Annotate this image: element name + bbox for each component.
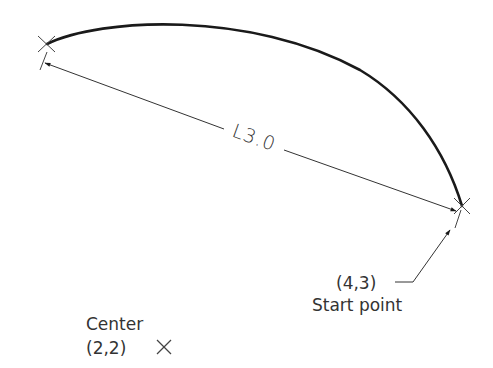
dimension-line-right bbox=[284, 150, 456, 211]
start-point-label: Start point bbox=[312, 295, 403, 315]
center-marker-icon bbox=[157, 340, 171, 354]
end-point-marker-icon bbox=[38, 36, 55, 52]
center-coords: (2,2) bbox=[86, 338, 126, 358]
center-label: Center bbox=[86, 314, 143, 334]
dimension-line-left bbox=[45, 63, 224, 129]
start-point-marker-icon bbox=[454, 198, 470, 214]
arc-length-label: L3.0 bbox=[230, 119, 280, 155]
arc-drawing: L3.0 (4,3) Start point Center (2,2) bbox=[0, 0, 493, 368]
extension-tick-left bbox=[40, 52, 47, 70]
start-point-coords: (4,3) bbox=[336, 273, 376, 293]
start-point-leader bbox=[395, 230, 450, 282]
arc bbox=[47, 24, 462, 206]
